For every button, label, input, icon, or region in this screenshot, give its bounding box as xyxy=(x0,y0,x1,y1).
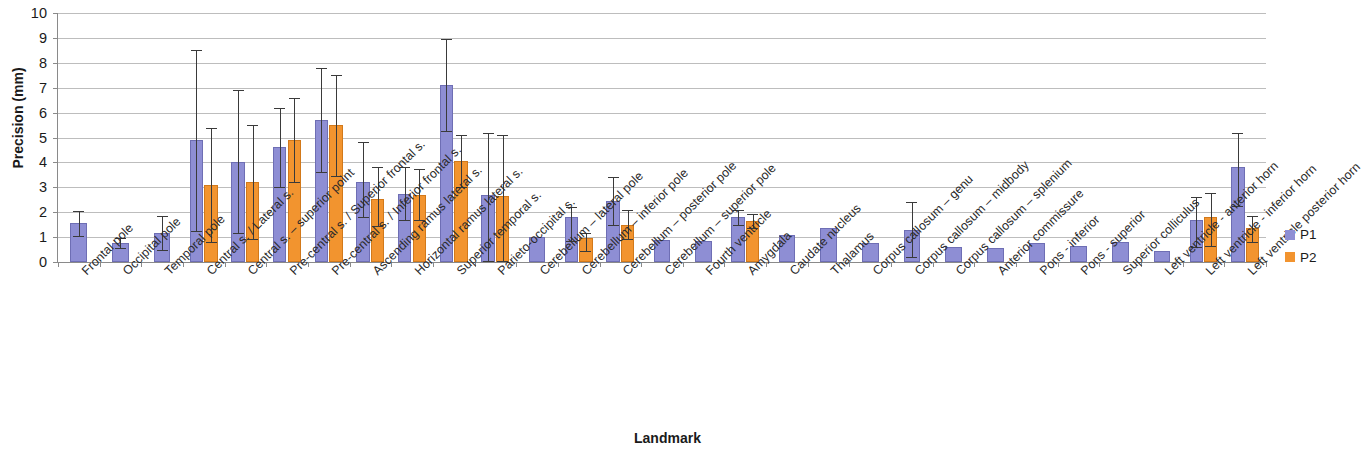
legend: P1P2 xyxy=(1285,228,1317,273)
legend-item: P2 xyxy=(1285,251,1317,265)
legend-item: P1 xyxy=(1285,228,1317,242)
legend-swatch xyxy=(1285,252,1295,262)
legend-label: P1 xyxy=(1300,228,1317,242)
x-axis-title: Landmark xyxy=(0,430,1335,446)
x-tick-label: Caudate nucleus xyxy=(787,201,864,278)
legend-label: P2 xyxy=(1300,251,1317,265)
x-tick-label: Parieto-occipital s. xyxy=(495,195,578,278)
x-tick-label: Superior colliculus xyxy=(1120,196,1202,278)
legend-swatch xyxy=(1285,230,1295,240)
